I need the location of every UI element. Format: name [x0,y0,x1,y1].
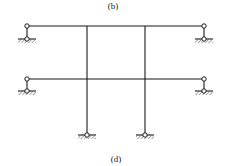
hinge-icon [25,24,206,81]
figure-label-d: (d) [96,154,136,164]
frame-diagram [0,0,230,166]
pin-support-icon [18,37,213,139]
